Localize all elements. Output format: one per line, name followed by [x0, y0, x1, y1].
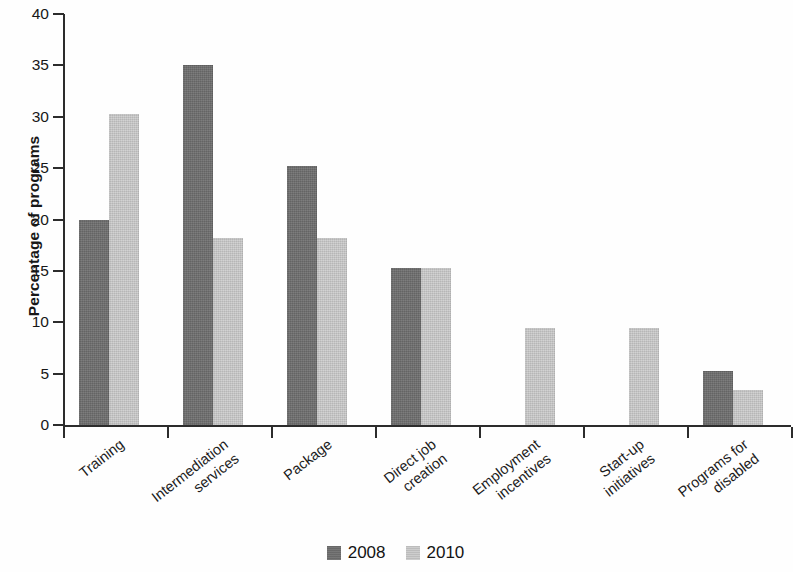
bar-2008-3[interactable] [391, 268, 421, 425]
legend-label: 2010 [427, 543, 465, 563]
bar-2010-1[interactable] [213, 238, 243, 425]
y-axis-tick-label: 30 [3, 109, 49, 125]
bar-2008-2[interactable] [287, 166, 317, 425]
x-axis-tick [687, 427, 689, 438]
legend-label: 2008 [348, 543, 386, 563]
x-axis-tick [167, 427, 169, 438]
bar-2010-6[interactable] [733, 390, 763, 425]
legend-swatch-icon [406, 546, 420, 560]
legend-item-2008[interactable]: 2008 [327, 543, 386, 563]
legend: 20082010 [0, 543, 791, 563]
bar-2010-0[interactable] [109, 114, 139, 425]
x-axis-tick [271, 427, 273, 438]
bars-layer [63, 14, 791, 425]
y-axis-tick-label: 15 [3, 263, 49, 279]
bar-2010-3[interactable] [421, 268, 451, 425]
x-axis-tick [479, 427, 481, 438]
y-axis-tick-label: 0 [3, 417, 49, 433]
bar-2010-2[interactable] [317, 238, 347, 425]
bar-2010-4[interactable] [525, 328, 555, 425]
y-axis-tick-label: 40 [3, 6, 49, 22]
bar-2008-6[interactable] [703, 371, 733, 425]
legend-item-2010[interactable]: 2010 [406, 543, 465, 563]
x-axis-tick [791, 427, 793, 438]
bar-2008-1[interactable] [183, 65, 213, 425]
x-axis-tick [583, 427, 585, 438]
legend-swatch-icon [327, 546, 341, 560]
bar-2008-0[interactable] [79, 220, 109, 426]
x-axis-tick [375, 427, 377, 438]
y-axis-tick-label: 5 [3, 366, 49, 382]
y-axis-tick-label: 10 [3, 314, 49, 330]
bar-2010-5[interactable] [629, 328, 659, 425]
x-axis-tick [63, 427, 65, 438]
y-axis-tick-label: 35 [3, 57, 49, 73]
y-axis-tick-label: 20 [3, 212, 49, 228]
y-axis-tick-label: 25 [3, 160, 49, 176]
x-axis-line [63, 425, 791, 427]
